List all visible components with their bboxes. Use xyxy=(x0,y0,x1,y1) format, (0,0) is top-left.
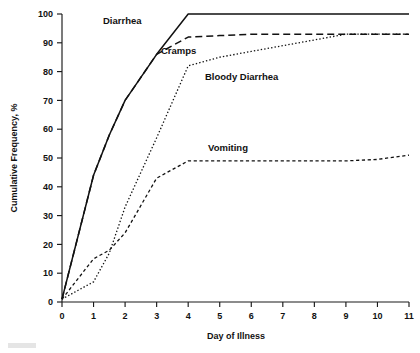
vomiting-label: Vomiting xyxy=(208,142,248,153)
y-tick-label: 40 xyxy=(43,182,53,192)
x-axis-ticks xyxy=(62,302,409,307)
x-axis: 01234567891011 xyxy=(59,302,413,321)
x-tick-label: 4 xyxy=(186,311,191,321)
y-tick-label: 80 xyxy=(43,67,53,77)
data-curves xyxy=(62,14,409,299)
y-axis-tick-labels: 0102030405060708090100 xyxy=(38,9,53,307)
y-axis-title: Cumulative Frequency, % xyxy=(9,104,19,213)
x-tick-label: 7 xyxy=(280,311,285,321)
x-tick-label: 6 xyxy=(249,311,254,321)
curve-vomiting xyxy=(62,155,409,299)
y-tick-label: 60 xyxy=(43,124,53,134)
y-tick-label: 10 xyxy=(43,268,53,278)
x-tick-label: 9 xyxy=(343,311,348,321)
y-tick-label: 70 xyxy=(43,96,53,106)
x-tick-label: 0 xyxy=(59,311,64,321)
y-axis: 0102030405060708090100 xyxy=(38,9,62,307)
x-tick-label: 10 xyxy=(372,311,382,321)
y-tick-label: 50 xyxy=(43,153,53,163)
x-tick-label: 2 xyxy=(123,311,128,321)
diarrhea-label: Diarrhea xyxy=(103,15,142,26)
curve-diarrhea xyxy=(62,14,409,299)
x-tick-label: 1 xyxy=(91,311,96,321)
cumulative-frequency-chart: 0102030405060708090100 01234567891011 Cu… xyxy=(0,0,420,353)
y-tick-label: 90 xyxy=(43,38,53,48)
x-tick-label: 5 xyxy=(217,311,222,321)
x-tick-label: 8 xyxy=(312,311,317,321)
x-axis-title: Day of Illness xyxy=(207,331,265,341)
y-tick-label: 0 xyxy=(48,297,53,307)
x-axis-tick-labels: 01234567891011 xyxy=(59,311,413,321)
y-tick-label: 20 xyxy=(43,240,53,250)
cramps-label: Cramps xyxy=(161,45,196,56)
y-tick-label: 30 xyxy=(43,211,53,221)
y-axis-ticks xyxy=(57,14,62,302)
y-tick-label: 100 xyxy=(38,9,53,19)
bloody-diarrhea-label: Bloody Diarrhea xyxy=(205,71,279,82)
scan-artifact xyxy=(8,343,36,348)
x-tick-label: 11 xyxy=(404,311,414,321)
chart-canvas: 0102030405060708090100 01234567891011 Cu… xyxy=(0,0,420,353)
x-tick-label: 3 xyxy=(154,311,159,321)
